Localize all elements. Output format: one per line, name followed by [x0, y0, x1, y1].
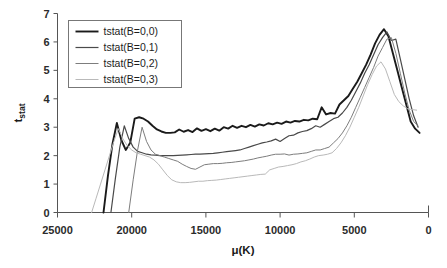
- legend-label-2: tstat(B=0,2): [104, 57, 159, 69]
- x-tick-label: 10000: [265, 224, 296, 236]
- legend-label-3: tstat(B=0,3): [104, 73, 159, 85]
- y-tick-label: 4: [43, 93, 50, 105]
- y-axis-title-subscript: stat: [17, 103, 27, 118]
- legend-label-0: tstat(B=0,0): [104, 25, 159, 37]
- chart-container: 012345672500020000150001000050000 tstat(…: [0, 0, 447, 268]
- legend-layer: tstat(B=0,0)tstat(B=0,1)tstat(B=0,2)tsta…: [69, 21, 182, 88]
- x-tick-label: 15000: [191, 224, 222, 236]
- y-tick-label: 5: [43, 64, 49, 76]
- legend-label-1: tstat(B=0,1): [104, 41, 159, 53]
- y-tick-label: 2: [43, 150, 49, 162]
- x-tick-label: 5000: [342, 224, 366, 236]
- tstat-vs-mu-line-chart: 012345672500020000150001000050000 tstat(…: [0, 0, 447, 268]
- x-tick-label: 25000: [42, 224, 73, 236]
- y-tick-label: 6: [43, 36, 49, 48]
- y-tick-label: 1: [43, 178, 49, 190]
- x-tick-label: 0: [425, 224, 431, 236]
- x-tick-label: 20000: [116, 224, 147, 236]
- x-axis-title: μ(K): [232, 244, 255, 256]
- y-tick-label: 0: [43, 207, 49, 219]
- y-tick-label: 7: [43, 8, 49, 20]
- y-tick-label: 3: [43, 121, 49, 133]
